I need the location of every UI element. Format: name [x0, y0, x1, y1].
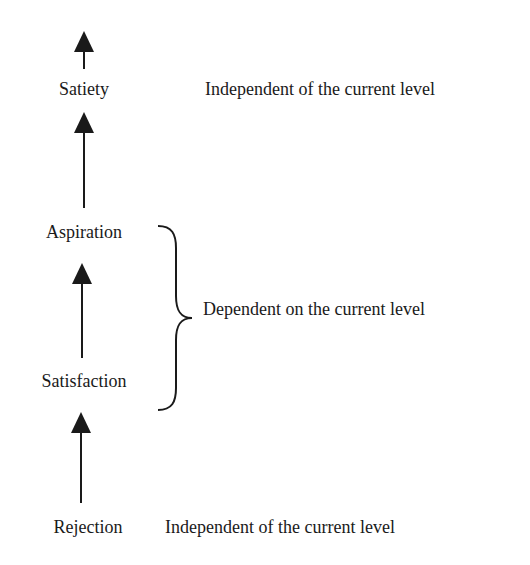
arrow-up-icon	[74, 112, 94, 208]
levels-diagram: Satiety Aspiration Satisfaction Rejectio…	[0, 0, 530, 565]
arrow-up-icon	[72, 263, 92, 358]
arrow-up-icon	[71, 412, 91, 503]
level-label-rejection: Rejection	[54, 518, 123, 536]
arrow-up-icon	[74, 31, 94, 69]
level-label-satisfaction: Satisfaction	[42, 372, 127, 390]
annotation-bottom: Independent of the current level	[165, 518, 395, 536]
curly-brace-icon	[158, 226, 192, 410]
annotation-top: Independent of the current level	[205, 80, 435, 98]
level-label-aspiration: Aspiration	[46, 223, 122, 241]
level-label-satiety: Satiety	[59, 80, 109, 98]
annotation-middle: Dependent on the current level	[203, 300, 425, 318]
